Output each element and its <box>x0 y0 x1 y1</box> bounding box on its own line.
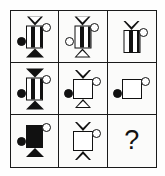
triangle-down-outline-icon <box>27 16 43 25</box>
figure-r1c2 <box>59 11 106 62</box>
triangle-down-solid-icon <box>26 68 44 77</box>
figure-body-open-square <box>73 79 93 99</box>
figure-stack <box>26 125 44 157</box>
triangle-up-solid-icon <box>26 148 44 157</box>
right-outline-circle-icon <box>139 28 148 37</box>
matrix-cell-r1c1[interactable] <box>11 11 59 63</box>
figure-body-striped-bar <box>26 77 43 100</box>
figure-r2c1 <box>11 63 58 114</box>
figure-stack <box>74 16 91 57</box>
figure-r1c3 <box>108 11 156 62</box>
figure-stack <box>73 70 93 108</box>
figure-body-solid-bar <box>26 125 43 148</box>
matrix-cell-r3c2[interactable] <box>59 115 107 167</box>
left-filled-circle-icon <box>113 89 122 98</box>
figure-body-striped-bar <box>74 25 91 48</box>
triangle-up-outline-icon <box>75 99 91 108</box>
figure-body-striped-bar <box>26 25 43 48</box>
matrix-cell-r3c1[interactable] <box>11 115 59 167</box>
triangle-up-solid-icon <box>26 100 44 109</box>
triangle-down-outline-icon <box>75 16 91 25</box>
missing-cell-question-mark: ? <box>124 127 139 154</box>
matrix-cell-r1c2[interactable] <box>59 11 107 63</box>
matrix-cell-r2c3[interactable] <box>108 63 156 115</box>
triangle-down-outline-icon <box>75 70 91 79</box>
figure-r3c2 <box>59 115 106 167</box>
figure-r1c1 <box>11 11 58 62</box>
figure-stack <box>123 21 140 53</box>
matrix-cell-r2c1[interactable] <box>11 63 59 115</box>
figure-body-striped-bar <box>123 30 140 53</box>
right-outline-circle-icon <box>141 77 150 86</box>
figure-stack <box>26 68 44 109</box>
triangle-down-outline-icon <box>75 122 91 131</box>
figure-body-open-square <box>73 131 93 151</box>
triangle-up-solid-icon <box>26 48 44 57</box>
right-outline-circle-icon <box>92 77 101 86</box>
left-filled-circle-icon <box>64 89 73 98</box>
triangle-down-outline-icon <box>124 21 140 30</box>
triangle-up-outline-icon <box>75 151 91 160</box>
matrix-cell-r2c2[interactable] <box>59 63 107 115</box>
matrix-puzzle-root: ? <box>0 0 165 176</box>
matrix-cell-r3c3[interactable]: ? <box>108 115 156 167</box>
figure-body-open-square <box>122 79 142 99</box>
right-outline-circle-icon <box>92 129 101 138</box>
triangle-up-outline-icon <box>75 48 91 57</box>
matrix-grid: ? <box>10 10 157 168</box>
matrix-cell-r1c3[interactable] <box>108 11 156 63</box>
figure-stack <box>73 122 93 160</box>
figure-stack <box>122 79 142 99</box>
figure-stack <box>26 16 44 57</box>
